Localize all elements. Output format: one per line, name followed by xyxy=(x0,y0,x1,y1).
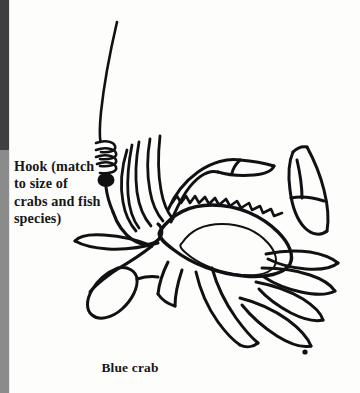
crab-left-rear-legs xyxy=(158,262,182,306)
annotation-line-4: species) xyxy=(14,210,136,227)
crab-center-leg xyxy=(196,268,258,347)
figure-page: Hook (match to size of crabs and fish sp… xyxy=(0,0,360,393)
crab-left-paddle xyxy=(88,268,159,319)
crab-carapace xyxy=(159,205,291,277)
ink-speck xyxy=(302,349,307,354)
annotation-line-2: to size of xyxy=(14,175,136,192)
crab-right-rear-legs xyxy=(256,251,338,321)
annotation-line-3: crabs and fish xyxy=(14,193,136,210)
crab-left-claw xyxy=(168,160,274,223)
fishing-line-icon xyxy=(100,22,117,142)
crab-right-claw xyxy=(289,147,328,234)
annotation-line-1: Hook (match xyxy=(14,158,136,175)
figure-caption: Blue crab xyxy=(0,360,260,376)
crab-left-front-leg xyxy=(75,235,158,292)
hook-annotation-label: Hook (match to size of crabs and fish sp… xyxy=(14,158,136,228)
